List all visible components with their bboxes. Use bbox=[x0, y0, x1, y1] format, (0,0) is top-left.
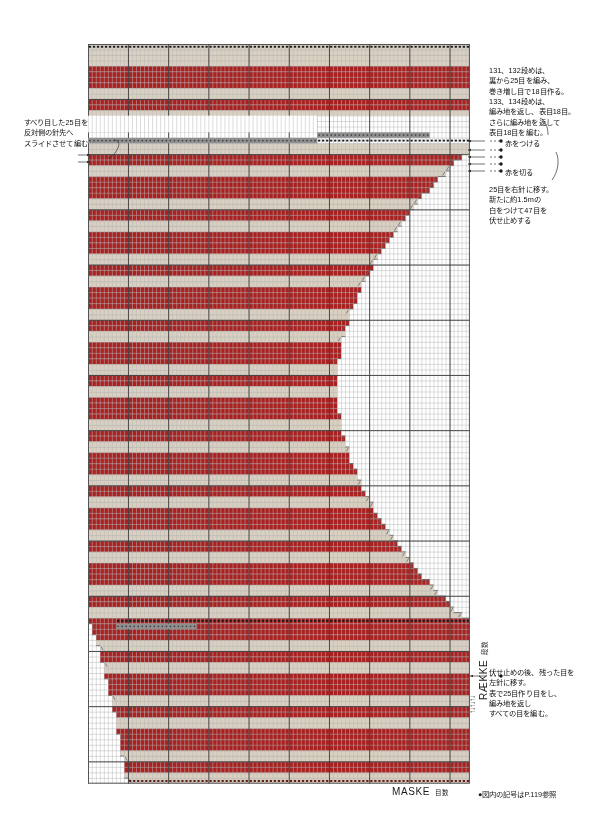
y-axis-label-text: RÆKKE bbox=[478, 660, 489, 700]
knit-direction-arrows: ↑↓↑↓↑↓ bbox=[468, 696, 477, 714]
y-axis-label-jp: 段数 bbox=[481, 641, 488, 655]
symbol-reference-footnote: ●図内の記号はP.119参照 bbox=[478, 789, 556, 799]
note-after-bind-off: 伏せ止めの後、残った目を 左針に移す。 表で25目作り目をし、 編み地を返し す… bbox=[489, 668, 595, 720]
knitting-chart bbox=[88, 44, 470, 784]
note-move-25-stitches: 25目を右針に移す。 新たに約1.5mの 白をつけて47目を 伏せ止めする bbox=[489, 185, 593, 226]
x-axis-label-text: MASKE bbox=[392, 786, 430, 797]
y-axis-label: RÆKKE段数 bbox=[478, 641, 489, 700]
chart-grid-canvas bbox=[88, 44, 470, 784]
x-axis-label-jp: 目数 bbox=[435, 789, 449, 796]
note-slip-stitch: すべり目した25目を 反対側の針先へ スライドさせて編む bbox=[24, 118, 122, 149]
label-attach-red: 赤をつける bbox=[505, 139, 540, 149]
note-rows-131-134: 131、132段めは、 裏から25目を編み、 巻き増し目で18目作る。 133、… bbox=[489, 66, 593, 139]
label-cut-red: 赤を切る bbox=[505, 168, 533, 178]
x-axis-label: MASKE目数 bbox=[392, 786, 449, 797]
